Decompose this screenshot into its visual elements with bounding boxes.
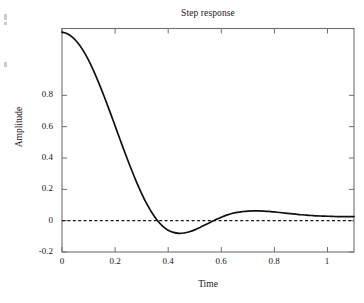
chart-canvas	[0, 0, 364, 303]
y-axis-ticks	[62, 95, 354, 252]
x-axis-ticks	[62, 29, 328, 253]
step-response-figure: Step response Amplitude Time -0.2 0 0.2 …	[0, 0, 364, 303]
plot-frame	[62, 29, 354, 253]
step-response-curve	[62, 32, 354, 233]
